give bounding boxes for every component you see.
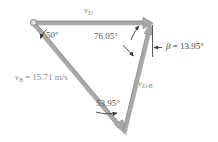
angle-label-53-95: 53.95°	[96, 99, 120, 108]
vector-diagram-canvas	[0, 0, 218, 142]
vector-label-vD: vD	[84, 6, 93, 17]
angle-label-76-05: 76.05°	[94, 32, 118, 41]
angle-label-50: 50°	[46, 31, 59, 40]
origin-dot-icon	[31, 20, 37, 26]
beta-value: = 13.95°	[173, 41, 204, 51]
angle-label-beta: β = 13.95°	[166, 42, 204, 51]
vector-vD	[34, 17, 153, 28]
vector-label-vB: vB= 15.71 m/s	[15, 73, 68, 84]
vector-label-vD-subscript: D	[88, 9, 93, 16]
angle-7605-leader-upper	[131, 26, 139, 40]
beta-symbol: β	[166, 41, 170, 51]
vector-label-vDB: vD/B	[138, 79, 152, 90]
vector-label-vDB-subscript: D/B	[142, 82, 152, 89]
vector-label-vB-magnitude: = 15.71 m/s	[23, 72, 68, 82]
vector-diagram-figure: vD vB= 15.71 m/s vD/B 50° 76.05° 53.95° …	[0, 0, 218, 142]
angle-7605-leader-lower	[123, 46, 134, 57]
